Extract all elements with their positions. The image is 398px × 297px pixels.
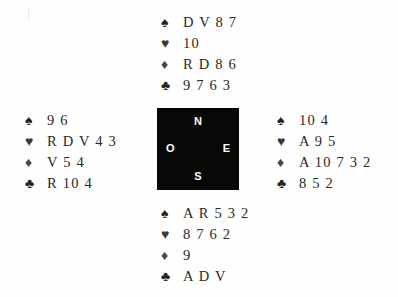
diamond-icon: ♦ — [25, 152, 42, 173]
hand-east-hearts: A 9 5 — [294, 131, 336, 152]
diamond-icon: ♦ — [277, 152, 294, 173]
compass-label-north: N — [157, 116, 239, 127]
diamond-icon: ♦ — [161, 54, 178, 75]
hand-west: ♠ 9 6 ♥ R D V 4 3 ♦ V 5 4 ♣ R 10 4 — [25, 110, 117, 194]
hand-east-diamonds-row: ♦ A 10 7 3 2 — [277, 152, 371, 173]
spade-icon: ♠ — [25, 110, 42, 131]
hand-north-diamonds: R D 8 6 — [178, 54, 237, 75]
hand-south-hearts: 8 7 6 2 — [178, 224, 231, 245]
hand-south-diamonds-row: ♦ 9 — [161, 245, 249, 266]
hand-north-clubs: 9 7 6 3 — [178, 75, 231, 96]
hand-south-spades: A R 5 3 2 — [178, 203, 249, 224]
hand-east: ♠ 10 4 ♥ A 9 5 ♦ A 10 7 3 2 ♣ 8 5 2 — [277, 110, 371, 194]
hand-south-hearts-row: ♥ 8 7 6 2 — [161, 224, 249, 245]
hand-north-diamonds-row: ♦ R D 8 6 — [161, 54, 237, 75]
hand-south-diamonds: 9 — [178, 245, 191, 266]
hand-south-spades-row: ♠ A R 5 3 2 — [161, 203, 249, 224]
hand-north-hearts-row: ♥ 10 — [161, 33, 237, 54]
hand-east-clubs: 8 5 2 — [294, 173, 334, 194]
hand-north-spades-row: ♠ D V 8 7 — [161, 12, 237, 33]
club-icon: ♣ — [277, 173, 294, 194]
hand-north: ♠ D V 8 7 ♥ 10 ♦ R D 8 6 ♣ 9 7 6 3 — [161, 12, 237, 96]
spade-icon: ♠ — [161, 203, 178, 224]
hand-east-spades-row: ♠ 10 4 — [277, 110, 371, 131]
scan-artifact — [28, 8, 29, 21]
club-icon: ♣ — [25, 173, 42, 194]
hand-south-clubs-row: ♣ A D V — [161, 266, 249, 287]
hand-south-clubs: A D V — [178, 266, 227, 287]
hand-west-hearts-row: ♥ R D V 4 3 — [25, 131, 117, 152]
hand-north-clubs-row: ♣ 9 7 6 3 — [161, 75, 237, 96]
hand-west-diamonds: V 5 4 — [42, 152, 85, 173]
heart-icon: ♥ — [25, 131, 42, 152]
hand-east-hearts-row: ♥ A 9 5 — [277, 131, 371, 152]
compass-box: N O E S — [157, 108, 239, 190]
heart-icon: ♥ — [161, 224, 178, 245]
hand-east-diamonds: A 10 7 3 2 — [294, 152, 371, 173]
compass-label-south: S — [157, 171, 239, 182]
hand-north-hearts: 10 — [178, 33, 200, 54]
club-icon: ♣ — [161, 266, 178, 287]
diamond-icon: ♦ — [161, 245, 178, 266]
hand-north-spades: D V 8 7 — [178, 12, 237, 33]
hand-west-clubs-row: ♣ R 10 4 — [25, 173, 117, 194]
spade-icon: ♠ — [161, 12, 178, 33]
club-icon: ♣ — [161, 75, 178, 96]
hand-west-diamonds-row: ♦ V 5 4 — [25, 152, 117, 173]
heart-icon: ♥ — [161, 33, 178, 54]
hand-west-clubs: R 10 4 — [42, 173, 93, 194]
hand-east-clubs-row: ♣ 8 5 2 — [277, 173, 371, 194]
hand-south: ♠ A R 5 3 2 ♥ 8 7 6 2 ♦ 9 ♣ A D V — [161, 203, 249, 287]
compass-label-east: E — [223, 143, 230, 154]
hand-west-spades-row: ♠ 9 6 — [25, 110, 117, 131]
bridge-deal-diagram: ♠ D V 8 7 ♥ 10 ♦ R D 8 6 ♣ 9 7 6 3 ♠ 9 6… — [0, 0, 398, 297]
heart-icon: ♥ — [277, 131, 294, 152]
compass-label-west: O — [166, 143, 175, 154]
spade-icon: ♠ — [277, 110, 294, 131]
hand-west-hearts: R D V 4 3 — [42, 131, 117, 152]
hand-east-spades: 10 4 — [294, 110, 329, 131]
hand-west-spades: 9 6 — [42, 110, 69, 131]
